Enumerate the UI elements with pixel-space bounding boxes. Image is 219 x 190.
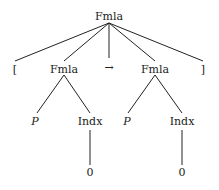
left-p-node: P	[31, 115, 38, 128]
parse-tree-diagram: Fmla [ Fmla → Fmla ] P Indx P Indx 0 0	[0, 0, 219, 190]
right-zero-leaf: 0	[179, 166, 186, 179]
root-node: Fmla	[95, 10, 123, 23]
right-bracket-node: ]	[201, 63, 205, 76]
right-p-node: P	[123, 115, 130, 128]
left-zero-leaf: 0	[87, 166, 94, 179]
arrow-node: →	[104, 61, 113, 74]
left-bracket-node: [	[13, 63, 17, 76]
right-fmla-node: Fmla	[141, 63, 169, 76]
left-indx-node: Indx	[78, 115, 103, 128]
tree-edges	[0, 0, 219, 190]
left-fmla-node: Fmla	[50, 63, 78, 76]
right-indx-node: Indx	[170, 115, 195, 128]
